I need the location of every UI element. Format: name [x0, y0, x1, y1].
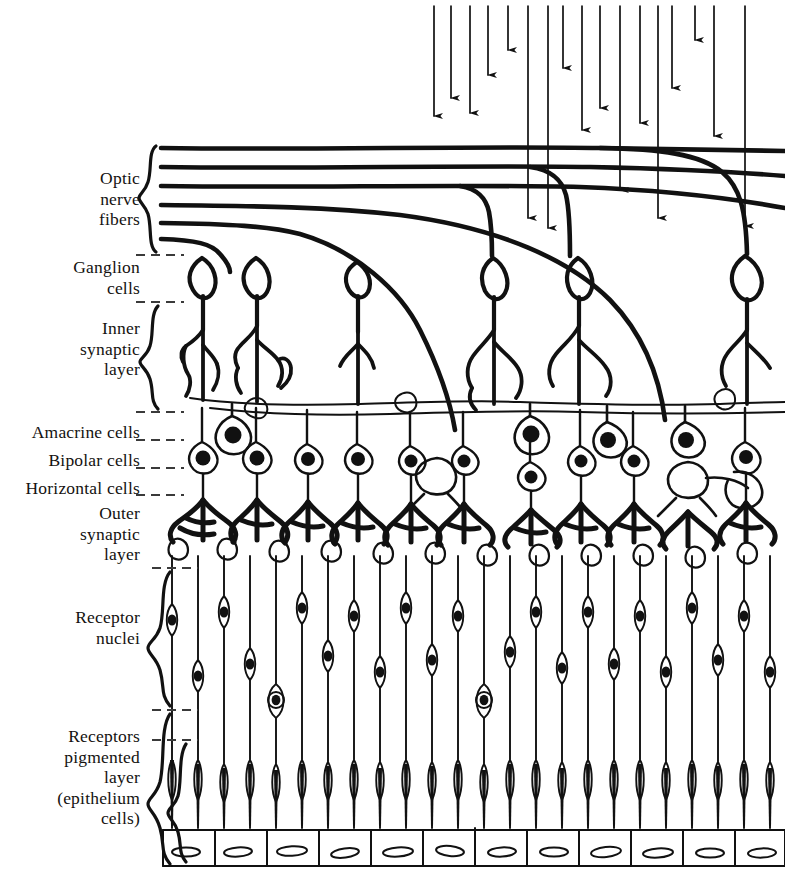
label-ganglion-cells: Ganglion cells	[0, 257, 140, 298]
retina-diagram-page: Optic nerve fibers Ganglion cells Inner …	[0, 0, 785, 872]
braces-group	[139, 146, 186, 864]
label-horizontal-cells: Horizontal cells	[0, 478, 140, 499]
label-bipolar-cells: Bipolar cells	[0, 450, 140, 471]
bipolar-cell	[568, 410, 595, 504]
inner-synaptic-layer-group	[181, 326, 770, 410]
ganglion-dendrite-arbor	[340, 332, 374, 404]
bipolar-cell	[295, 410, 322, 502]
brace-inner-synaptic-layer	[140, 306, 158, 409]
inner-plexiform-horizontal-processes	[190, 389, 785, 418]
ganglion-cell	[567, 258, 592, 326]
ganglion-dendrite-arbor	[468, 330, 522, 410]
brace-receptor-nuclei	[148, 572, 170, 706]
ganglion-cell	[190, 258, 216, 330]
bipolar-cell	[621, 412, 648, 504]
bipolar-cell	[345, 412, 372, 503]
horizontal-cell	[658, 462, 748, 516]
brace-optic-nerve-fibers	[139, 146, 156, 252]
nerve-fiber-long	[460, 186, 492, 256]
ganglion-dendrite-arbor	[181, 330, 218, 400]
outer-synaptic-layer-group	[170, 500, 775, 549]
ganglion-cell	[482, 258, 507, 330]
pigment-processes-group	[170, 760, 772, 826]
ganglion-cell	[346, 262, 370, 332]
brace-receptors-pigmented-layer	[148, 714, 170, 864]
ganglion-cells-group	[190, 256, 762, 332]
ganglion-dendrite-arbor	[235, 326, 291, 402]
nerve-fiber	[161, 147, 785, 151]
nerve-fiber-long	[530, 167, 570, 256]
label-outer-synaptic-layer: Outer synaptic layer	[0, 503, 140, 565]
bipolar-cell	[732, 408, 760, 503]
label-receptor-nuclei: Receptor nuclei	[0, 607, 140, 648]
nerve-fiber	[161, 166, 785, 176]
label-inner-synaptic-layer: Inner synaptic layer	[0, 318, 140, 380]
label-amacrine-cells: Amacrine cells	[0, 422, 140, 443]
bipolar-cell	[243, 408, 271, 500]
ganglion-dendrite-arbor	[722, 330, 770, 404]
nerve-fiber-long	[600, 148, 747, 254]
ganglion-cell	[732, 256, 762, 330]
nerve-fiber	[161, 223, 455, 430]
receptor-cells-group	[167, 556, 776, 828]
layer-dividers-group	[136, 255, 198, 740]
bipolar-cell	[189, 408, 217, 500]
ganglion-dendrite-arbor	[549, 326, 611, 404]
label-optic-nerve-fibers: Optic nerve fibers	[0, 168, 140, 230]
ganglion-cell	[244, 258, 270, 326]
pigment-epithelium-row	[163, 828, 785, 866]
label-receptors-pigmented-layer: Receptors pigmented layer (epithelium ce…	[0, 726, 140, 829]
